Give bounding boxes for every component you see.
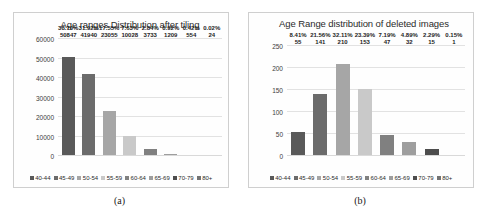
bar-data-label: 7.63%10028 (121, 25, 138, 39)
bar-percent-label: 32.11% (333, 32, 353, 39)
legend-swatch-icon (270, 176, 274, 180)
legend-item-40-44[interactable]: 40-44 (30, 175, 51, 181)
legend-label: 40-44 (35, 175, 50, 181)
bar-value-label: 50847 (58, 32, 78, 39)
legend-label: 55-59 (107, 175, 122, 181)
bar-slot: 32.11%210 (332, 46, 354, 156)
legend-swatch-icon (173, 176, 177, 180)
legend-item-55-59[interactable]: 55-59 (101, 175, 122, 181)
chart-b: Age Range distribution of deleted images… (248, 12, 474, 188)
legend-item-40-44[interactable]: 40-44 (270, 175, 291, 181)
bar[interactable] (313, 94, 327, 156)
bar-percent-label: 0.92% (162, 25, 179, 32)
legend-item-60-64[interactable]: 60-64 (125, 175, 146, 181)
bar-data-label: 32.11%210 (333, 32, 353, 46)
bar[interactable] (62, 57, 75, 156)
bar-data-label: 38.70%50847 (58, 25, 78, 39)
bar-percent-label: 0.02% (203, 25, 220, 32)
bar[interactable] (82, 74, 95, 156)
bar-percent-label: 21.56% (310, 32, 330, 39)
bar-slot: 4.89%32 (398, 46, 420, 156)
bar[interactable] (380, 135, 394, 156)
legend-item-70-79[interactable]: 70-79 (173, 175, 194, 181)
caption-b: (b) (238, 195, 479, 206)
legend-swatch-icon (125, 176, 129, 180)
bar-value-label: 141 (310, 39, 330, 46)
bar-slot: 0.92%1209 (161, 39, 182, 156)
legend-item-45-49[interactable]: 45-49 (54, 175, 75, 181)
legend-item-45-49[interactable]: 45-49 (294, 175, 315, 181)
y-axis-tick-label: 50 (276, 131, 283, 138)
panel-b: Age Range distribution of deleted images… (239, 0, 479, 206)
chart-b-plot-area: 050100150200250 8.41%5521.56%14132.11%21… (287, 46, 465, 156)
bar-slot: 7.63%10028 (120, 39, 141, 156)
bar-data-label: 31.92%41940 (79, 25, 99, 39)
legend-swatch-icon (197, 176, 201, 180)
legend-item-70-79[interactable]: 70-79 (413, 175, 434, 181)
bar-percent-label: 0.15% (445, 32, 462, 39)
y-axis-tick-label: 0 (279, 153, 283, 160)
y-axis-tick-label: 0 (50, 153, 54, 160)
legend-label: 60-64 (371, 175, 386, 181)
legend-label: 40-44 (275, 175, 290, 181)
legend-item-80+[interactable]: 80+ (197, 175, 213, 181)
bar[interactable] (402, 142, 416, 156)
chart-a-bars: 38.70%5084731.92%4194017.55%230557.63%10… (58, 39, 222, 156)
legend-swatch-icon (294, 176, 298, 180)
legend-swatch-icon (317, 176, 321, 180)
bar-data-label: 7.19%47 (379, 32, 396, 46)
y-axis-tick-label: 50000 (36, 55, 54, 62)
legend-item-60-64[interactable]: 60-64 (365, 175, 386, 181)
bar-slot: 21.56%141 (309, 46, 331, 156)
bar-percent-label: 17.55% (99, 25, 119, 32)
bar-slot: 0.15%1 (443, 46, 465, 156)
legend-label: 60-64 (131, 175, 146, 181)
legend-item-55-59[interactable]: 55-59 (341, 175, 362, 181)
bar[interactable] (123, 136, 136, 156)
legend-item-65-69[interactable]: 65-69 (389, 175, 410, 181)
legend-item-50-54[interactable]: 50-54 (317, 175, 338, 181)
legend-label: 50-54 (83, 175, 98, 181)
chart-a-baseline (58, 155, 222, 156)
legend-label: 50-54 (323, 175, 338, 181)
bar[interactable] (291, 132, 305, 156)
chart-b-title: Age Range distribution of deleted images (249, 18, 473, 29)
legend-label: 70-79 (418, 175, 433, 181)
legend-swatch-icon (341, 176, 345, 180)
legend-label: 80+ (442, 175, 452, 181)
bar[interactable] (103, 111, 116, 156)
bar-value-label: 24 (203, 32, 220, 39)
bar-data-label: 4.89%32 (401, 32, 418, 46)
legend-label: 65-69 (154, 175, 169, 181)
legend-swatch-icon (389, 176, 393, 180)
chart-b-bars: 8.41%5521.56%14132.11%21023.39%1537.19%4… (287, 46, 465, 156)
legend-swatch-icon (30, 176, 34, 180)
bar-percent-label: 7.19% (379, 32, 396, 39)
bar-percent-label: 4.89% (401, 32, 418, 39)
y-axis-tick-label: 30000 (36, 94, 54, 101)
bar-percent-label: 2.84% (142, 25, 159, 32)
bar-value-label: 10028 (121, 32, 138, 39)
bar-slot: 0.02%24 (202, 39, 223, 156)
legend-label: 65-69 (394, 175, 409, 181)
y-axis-tick-label: 200 (272, 65, 283, 72)
chart-b-legend: 40-4445-4950-5455-5960-6465-6970-7980+ (249, 175, 473, 181)
bar-value-label: 3733 (142, 32, 159, 39)
bar-percent-label: 31.92% (79, 25, 99, 32)
bar-data-label: 0.02%24 (203, 25, 220, 39)
chart-a: Age ranges Distribution after tiling 010… (13, 12, 229, 188)
bar[interactable] (336, 64, 350, 156)
bar-percent-label: 23.39% (355, 32, 375, 39)
legend-item-80+[interactable]: 80+ (437, 175, 453, 181)
legend-item-50-54[interactable]: 50-54 (77, 175, 98, 181)
legend-swatch-icon (77, 176, 81, 180)
legend-swatch-icon (413, 176, 417, 180)
bar-percent-label: 38.70% (58, 25, 78, 32)
bar-data-label: 0.92%1209 (162, 25, 179, 39)
bar[interactable] (358, 89, 372, 156)
bar-percent-label: 2.29% (423, 32, 440, 39)
bar-slot: 2.29%15 (421, 46, 443, 156)
bar-value-label: 1209 (162, 32, 179, 39)
bar-value-label: 23055 (99, 32, 119, 39)
legend-item-65-69[interactable]: 65-69 (149, 175, 170, 181)
